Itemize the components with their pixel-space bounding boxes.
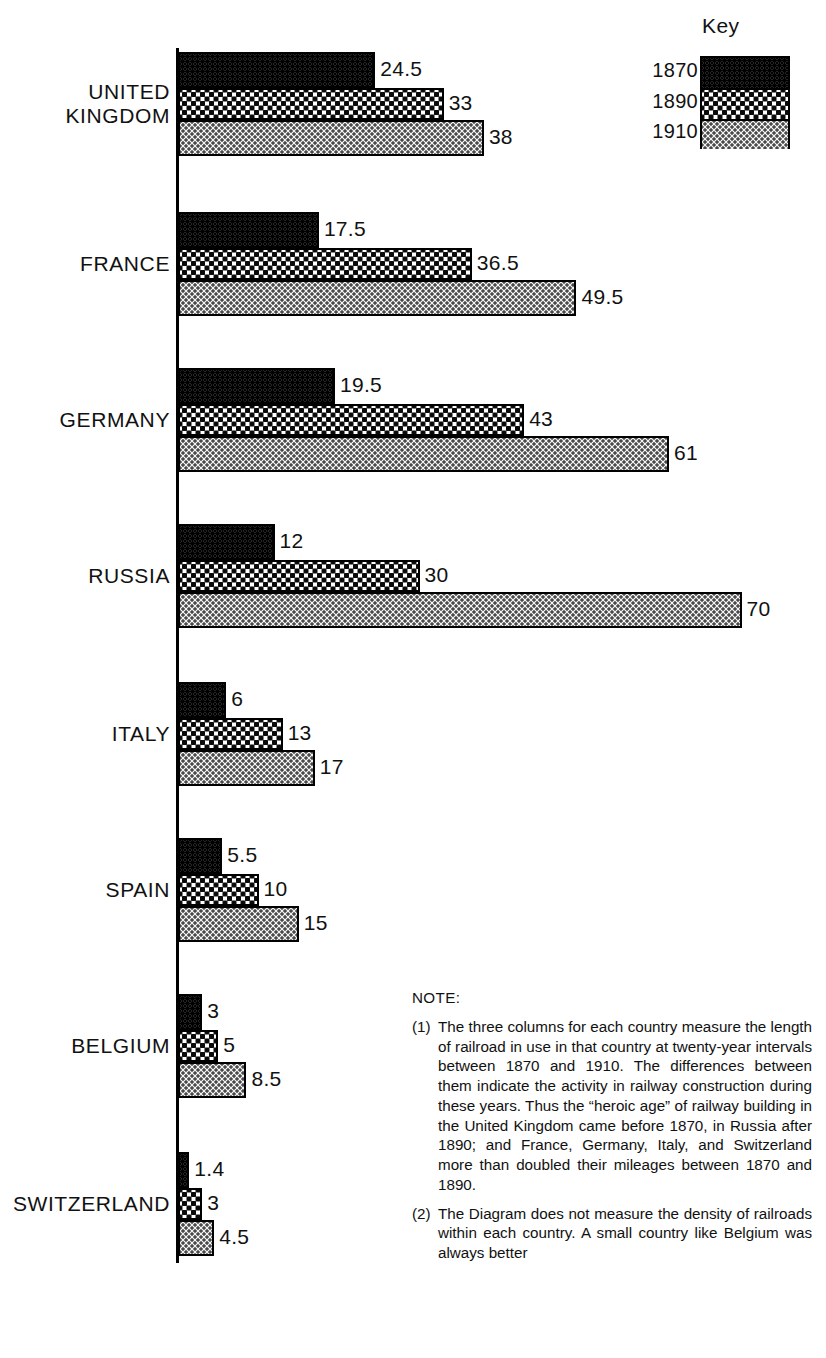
bar-1910 xyxy=(178,436,669,472)
bar-value-label: 3 xyxy=(207,1191,219,1215)
bar-value-label: 49.5 xyxy=(581,285,623,309)
bar-1910 xyxy=(178,592,742,628)
country-label: UNITED KINGDOM xyxy=(65,80,170,127)
country-group: SPAIN5.51015 xyxy=(0,838,826,942)
country-group: FRANCE17.536.549.5 xyxy=(0,212,826,316)
note-block: NOTE: (1) The three columns for each cou… xyxy=(412,988,812,1263)
bar-value-label: 70 xyxy=(747,597,771,621)
bar-1910 xyxy=(178,906,299,942)
bar-1870 xyxy=(178,838,222,874)
bar-1870 xyxy=(178,212,319,248)
bar-value-label: 61 xyxy=(674,441,698,465)
bar-value-label: 24.5 xyxy=(380,57,422,81)
country-group: UNITED KINGDOM24.53338 xyxy=(0,52,826,156)
bar-1870 xyxy=(178,1152,189,1188)
bar-value-label: 6 xyxy=(231,687,243,711)
note-text: The three columns for each country measu… xyxy=(438,1017,812,1195)
bar-value-label: 8.5 xyxy=(251,1067,281,1091)
bar-1910 xyxy=(178,1062,246,1098)
note-number: (1) xyxy=(412,1017,438,1195)
bar-value-label: 12 xyxy=(280,529,304,553)
bar-1910 xyxy=(178,120,484,156)
country-label: RUSSIA xyxy=(88,564,170,588)
bar-value-label: 30 xyxy=(425,563,449,587)
bar-value-label: 5 xyxy=(223,1033,235,1057)
bar-1890 xyxy=(178,874,259,906)
bar-1910 xyxy=(178,750,315,786)
bar-value-label: 10 xyxy=(264,877,288,901)
bar-value-label: 38 xyxy=(489,125,513,149)
bar-1890 xyxy=(178,404,524,436)
country-group: GERMANY19.54361 xyxy=(0,368,826,472)
bar-value-label: 5.5 xyxy=(227,843,257,867)
note-text: The Diagram does not measure the density… xyxy=(438,1204,812,1263)
country-label: FRANCE xyxy=(80,252,170,276)
bar-1870 xyxy=(178,682,226,718)
bar-value-label: 15 xyxy=(304,911,328,935)
country-label: ITALY xyxy=(112,722,170,746)
country-label: BELGIUM xyxy=(71,1034,170,1058)
country-label: SWITZERLAND xyxy=(13,1192,170,1216)
note-item: (2) The Diagram does not measure the den… xyxy=(412,1204,812,1263)
country-group: RUSSIA123070 xyxy=(0,524,826,628)
bar-value-label: 19.5 xyxy=(340,373,382,397)
bar-1910 xyxy=(178,1220,214,1256)
bar-1870 xyxy=(178,994,202,1030)
bar-value-label: 36.5 xyxy=(477,251,519,275)
bar-1870 xyxy=(178,368,335,404)
bar-1890 xyxy=(178,248,472,280)
note-item: (1) The three columns for each country m… xyxy=(412,1017,812,1195)
bar-1910 xyxy=(178,280,576,316)
bar-value-label: 13 xyxy=(288,721,312,745)
bar-value-label: 17 xyxy=(320,755,344,779)
bar-1890 xyxy=(178,718,283,750)
bar-1890 xyxy=(178,1188,202,1220)
bar-value-label: 17.5 xyxy=(324,217,366,241)
country-label: SPAIN xyxy=(106,878,170,902)
bar-1870 xyxy=(178,524,275,560)
bar-value-label: 3 xyxy=(207,999,219,1023)
bar-value-label: 1.4 xyxy=(194,1157,224,1181)
bar-1890 xyxy=(178,88,444,120)
bar-value-label: 43 xyxy=(529,407,553,431)
note-heading: NOTE: xyxy=(412,988,812,1008)
bar-1890 xyxy=(178,1030,218,1062)
bar-value-label: 33 xyxy=(449,91,473,115)
bar-1890 xyxy=(178,560,420,592)
country-label: GERMANY xyxy=(60,408,170,432)
bar-value-label: 4.5 xyxy=(219,1225,249,1249)
bar-1870 xyxy=(178,52,375,88)
note-number: (2) xyxy=(412,1204,438,1263)
country-group: ITALY61317 xyxy=(0,682,826,786)
